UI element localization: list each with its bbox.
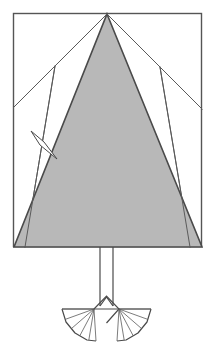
sail-rig-diagram: [0, 0, 215, 347]
figure-container: [0, 0, 215, 347]
